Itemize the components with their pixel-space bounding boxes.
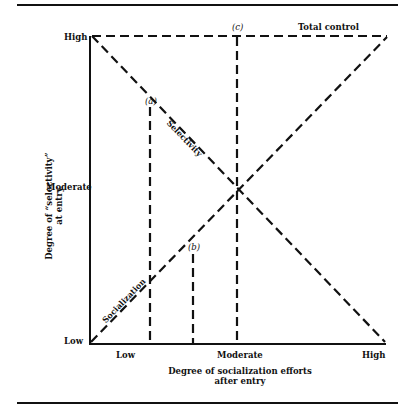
y-axis-title: Degree of “selectivity” at entry bbox=[44, 146, 64, 266]
total-control-label: Total control bbox=[298, 22, 359, 32]
x-axis-title: Degree of socialization efforts after en… bbox=[160, 366, 320, 386]
y-tick-low: Low bbox=[64, 336, 83, 346]
x-axis-title-line2: after entry bbox=[160, 376, 320, 386]
x-tick-high: High bbox=[362, 350, 385, 360]
x-tick-low: Low bbox=[116, 350, 135, 360]
point-a-label: (a) bbox=[145, 96, 157, 106]
point-b-label: (b) bbox=[188, 242, 200, 252]
x-axis-title-line1: Degree of socialization efforts bbox=[160, 366, 320, 376]
y-axis-title-line2: at entry bbox=[54, 146, 64, 266]
point-c-label: (c) bbox=[232, 22, 243, 32]
y-axis-title-line1: Degree of “selectivity” bbox=[44, 146, 54, 266]
x-tick-moderate: Moderate bbox=[217, 350, 263, 360]
y-tick-high: High bbox=[64, 32, 87, 42]
